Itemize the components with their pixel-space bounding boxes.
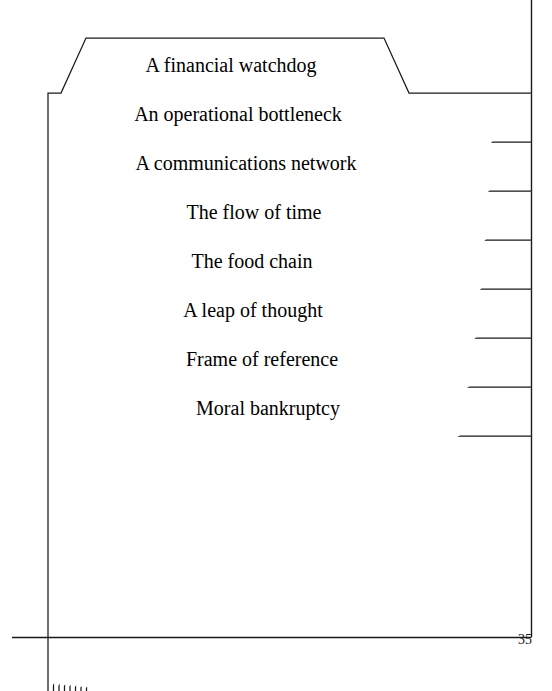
tab-label-3: A communications network (135, 152, 356, 174)
tab-label-1: A financial watchdog (145, 54, 316, 77)
tab-label-2: An operational bottleneck (134, 103, 342, 126)
tab-label-8: Moral bankruptcy (196, 397, 340, 420)
tab-label-4: The flow of time (187, 201, 322, 223)
nested-folder-diagram: A financial watchdog An operational bott… (0, 0, 552, 691)
page-canvas: A financial watchdog An operational bott… (0, 0, 552, 691)
tab-label-7: Frame of reference (186, 348, 338, 370)
tab-label-5: The food chain (191, 250, 312, 272)
page-number: 35 (518, 632, 532, 647)
tab-label-6: A leap of thought (183, 299, 323, 322)
